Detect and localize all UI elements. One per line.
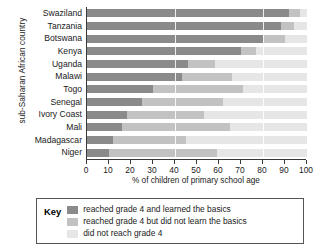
stacked-bar — [87, 35, 307, 43]
stacked-bar — [87, 123, 307, 131]
bar-segment — [281, 22, 294, 30]
bar-segment — [127, 111, 204, 119]
legend-items: reached grade 4 and learned the basicsre… — [67, 199, 246, 239]
x-tick — [108, 160, 109, 164]
legend-swatch — [67, 230, 78, 238]
bar-segment — [87, 85, 153, 93]
bar-row — [87, 134, 307, 147]
x-tick — [218, 160, 219, 164]
x-tick — [196, 160, 197, 164]
bar-row — [87, 70, 307, 83]
legend-label: reached grade 4 but did not learn the ba… — [83, 217, 246, 225]
legend-swatch — [67, 218, 78, 226]
category-label: Madagascar — [18, 134, 84, 147]
bar-segment — [109, 149, 217, 157]
bar-segment — [182, 73, 233, 81]
x-tick-label: 100 — [299, 165, 313, 175]
bar-series-container — [87, 7, 307, 159]
bar-row — [87, 146, 307, 159]
bar-segment — [285, 35, 307, 43]
stacked-bar — [87, 136, 307, 144]
bar-segment — [153, 85, 243, 93]
bar-segment — [87, 123, 122, 131]
x-tick — [86, 160, 87, 164]
legend: Key reached grade 4 and learned the basi… — [36, 198, 304, 244]
x-tick-label: 30 — [147, 165, 156, 175]
x-tick — [174, 160, 175, 164]
bar-segment — [87, 47, 241, 55]
x-tick — [306, 160, 307, 164]
legend-title: Key — [37, 199, 67, 217]
stacked-bar-chart: sub-Saharan African country SwazilandTan… — [0, 0, 317, 186]
bar-segment — [87, 60, 188, 68]
x-tick-label: 10 — [103, 165, 112, 175]
bar-segment — [232, 73, 307, 81]
stacked-bar — [87, 149, 307, 157]
category-label: Uganda — [18, 58, 84, 71]
x-tick — [152, 160, 153, 164]
category-label: Botswana — [18, 32, 84, 45]
x-tick-label: 70 — [235, 165, 244, 175]
bar-segment — [142, 98, 223, 106]
stacked-bar — [87, 47, 307, 55]
bar-segment — [87, 136, 113, 144]
bar-row — [87, 7, 307, 20]
bar-row — [87, 83, 307, 96]
legend-item: did not reach grade 4 — [67, 228, 246, 239]
legend-swatch — [67, 206, 78, 214]
category-label: Kenya — [18, 45, 84, 58]
bar-segment — [87, 98, 142, 106]
bar-row — [87, 121, 307, 134]
bar-segment — [87, 22, 281, 30]
x-tick-label: 80 — [257, 165, 266, 175]
x-tick — [240, 160, 241, 164]
bar-segment — [113, 136, 186, 144]
x-axis-title: % of children of primary school age — [86, 176, 306, 185]
bar-segment — [204, 111, 307, 119]
bar-row — [87, 32, 307, 45]
bar-row — [87, 108, 307, 121]
category-label: Malawi — [18, 70, 84, 83]
bar-row — [87, 96, 307, 109]
bar-segment — [87, 35, 263, 43]
stacked-bar — [87, 98, 307, 106]
x-tick-label: 50 — [191, 165, 200, 175]
bar-segment — [215, 60, 307, 68]
bar-segment — [241, 47, 256, 55]
bar-segment — [294, 22, 307, 30]
x-tick — [262, 160, 263, 164]
category-label: Senegal — [18, 96, 84, 109]
bar-segment — [186, 136, 307, 144]
bar-row — [87, 45, 307, 58]
stacked-bar — [87, 60, 307, 68]
x-tick-label: 60 — [213, 165, 222, 175]
bar-segment — [256, 47, 307, 55]
category-label: Ivory Coast — [18, 108, 84, 121]
x-tick-label: 40 — [169, 165, 178, 175]
category-axis-labels: SwazilandTanzaniaBotswanaKenyaUgandaMala… — [18, 7, 84, 159]
bar-segment — [243, 85, 307, 93]
bar-segment — [122, 123, 230, 131]
bar-segment — [289, 9, 300, 17]
stacked-bar — [87, 22, 307, 30]
x-tick-label: 0 — [84, 165, 89, 175]
bar-segment — [87, 111, 127, 119]
bar-segment — [217, 149, 307, 157]
x-tick — [284, 160, 285, 164]
bar-segment — [87, 149, 109, 157]
plot-area — [86, 7, 307, 159]
stacked-bar — [87, 73, 307, 81]
x-tick — [130, 160, 131, 164]
legend-item: reached grade 4 and learned the basics — [67, 204, 246, 215]
bar-segment — [87, 9, 289, 17]
bar-segment — [300, 9, 307, 17]
x-tick-label: 20 — [125, 165, 134, 175]
stacked-bar — [87, 85, 307, 93]
bar-segment — [230, 123, 307, 131]
category-label: Swaziland — [18, 7, 84, 20]
bar-segment — [188, 60, 214, 68]
category-label: Togo — [18, 83, 84, 96]
x-tick-label: 90 — [279, 165, 288, 175]
stacked-bar — [87, 111, 307, 119]
category-label: Niger — [18, 146, 84, 159]
